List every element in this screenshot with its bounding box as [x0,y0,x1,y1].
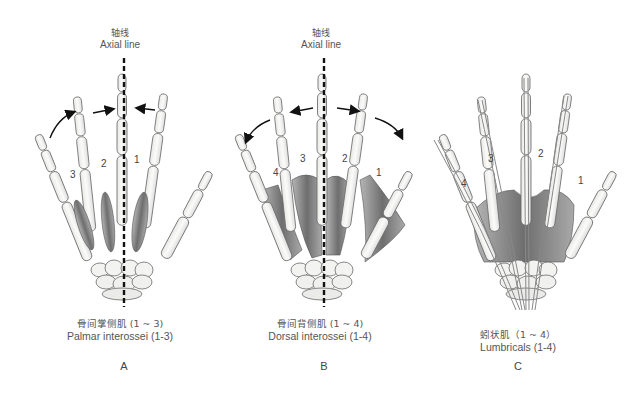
muscle-number: 4 [273,167,279,178]
muscle-number: 3 [300,153,306,164]
panel-c: 4 3 2 1 蚓状肌（1 ~ 4） Lumbricals (1-4) C [404,0,634,393]
panel-a: 轴线 Axial line 3 2 1 骨间掌侧肌 (1 ~ 3) Palmar… [0,0,230,393]
hand-illustration-dorsal-interossei [200,0,430,310]
caption-zh: 蚓状肌（1 ~ 4） [418,328,618,341]
arrow-icon [292,108,313,112]
panel-letter: B [314,360,334,372]
muscle-number: 4 [461,178,467,189]
caption-en: Lumbricals (1-4) [418,341,618,354]
muscle-number: 3 [488,153,494,164]
muscle-number: 2 [342,153,348,164]
arrow-icon [375,118,402,138]
caption-en: Dorsal interossei (1-4) [220,330,420,343]
palmar-interosseous-2 [99,192,117,253]
caption-b: 骨间背侧肌 (1 ~ 4) Dorsal interossei (1-4) [220,317,420,343]
arrow-icon [246,120,270,142]
arrow-icon [50,112,74,138]
muscle-number: 2 [538,148,544,159]
hand-illustration-palmar-interossei [0,0,230,310]
caption-zh: 骨间掌侧肌 (1 ~ 3) [20,317,220,330]
caption-en: Palmar interossei (1-3) [20,330,220,343]
caption-c: 蚓状肌（1 ~ 4） Lumbricals (1-4) [418,328,618,354]
arrow-icon [137,108,155,110]
panel-b: 轴线 Axial line 4 3 2 1 骨间背侧肌 (1 ~ 4) Dors… [200,0,430,393]
panel-letter: C [508,360,528,372]
arrow-icon [337,108,358,111]
caption-zh: 骨间背侧肌 (1 ~ 4) [220,317,420,330]
muscle-number: 1 [134,154,140,165]
hand-illustration-lumbricals [404,0,634,320]
muscle-number: 1 [376,167,382,178]
muscle-number: 2 [101,158,107,169]
panel-letter: A [114,360,134,372]
arrow-icon [93,109,113,113]
muscle-number: 1 [578,175,584,186]
caption-a: 骨间掌侧肌 (1 ~ 3) Palmar interossei (1-3) [20,317,220,343]
muscle-number: 3 [70,169,76,180]
